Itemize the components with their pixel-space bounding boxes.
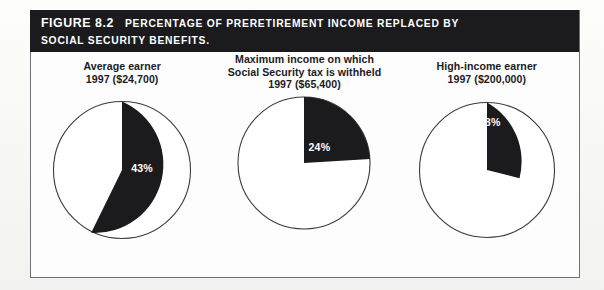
caption-line-2: Social Security tax is withheld — [228, 66, 381, 79]
figure-title-line-2: SOCIAL SECURITY BENEFITS. — [41, 32, 569, 49]
pie-chart-2: 8% — [417, 100, 557, 240]
caption-line-1: High-income earner — [437, 60, 537, 73]
caption-line-1: Maximum income on which — [228, 53, 381, 66]
figure-header-bar: FIGURE 8.2PERCENTAGE OF PRERETIREMENT IN… — [30, 10, 579, 52]
pie-svg-0 — [52, 100, 192, 240]
chart-caption-1: Maximum income on which Social Security … — [228, 53, 381, 91]
caption-line-3: 1997 ($65,400) — [228, 78, 381, 91]
pie-chart-row: Average earner 1997 ($24,700) 43% Maximu… — [31, 52, 578, 277]
caption-line-2: 1997 ($24,700) — [83, 73, 160, 86]
pie-value-label-2: 8% — [485, 116, 501, 128]
pie-value-label-0: 43% — [131, 162, 153, 174]
figure-title-line-1: FIGURE 8.2PERCENTAGE OF PRERETIREMENT IN… — [41, 15, 569, 32]
pie-wedge-1 — [304, 97, 370, 163]
chart-caption-0: Average earner 1997 ($24,700) — [83, 60, 160, 98]
chart-average-earner: Average earner 1997 ($24,700) 43% — [33, 52, 211, 240]
pie-chart-0: 43% — [52, 100, 192, 240]
chart-maximum-taxable-income: Maximum income on which Social Security … — [215, 52, 393, 233]
figure-number-label: FIGURE 8.2 — [41, 16, 114, 30]
caption-line-1: Average earner — [83, 60, 160, 73]
figure-title-text-1: PERCENTAGE OF PRERETIREMENT INCOME REPLA… — [125, 18, 459, 29]
chart-high-income-earner: High-income earner 1997 ($200,000) 8% — [398, 52, 576, 240]
chart-caption-2: High-income earner 1997 ($200,000) — [437, 60, 537, 98]
pie-svg-1 — [234, 93, 374, 233]
pie-chart-1: 24% — [234, 93, 374, 233]
caption-line-2: 1997 ($200,000) — [437, 73, 537, 86]
pie-value-label-1: 24% — [308, 141, 330, 153]
